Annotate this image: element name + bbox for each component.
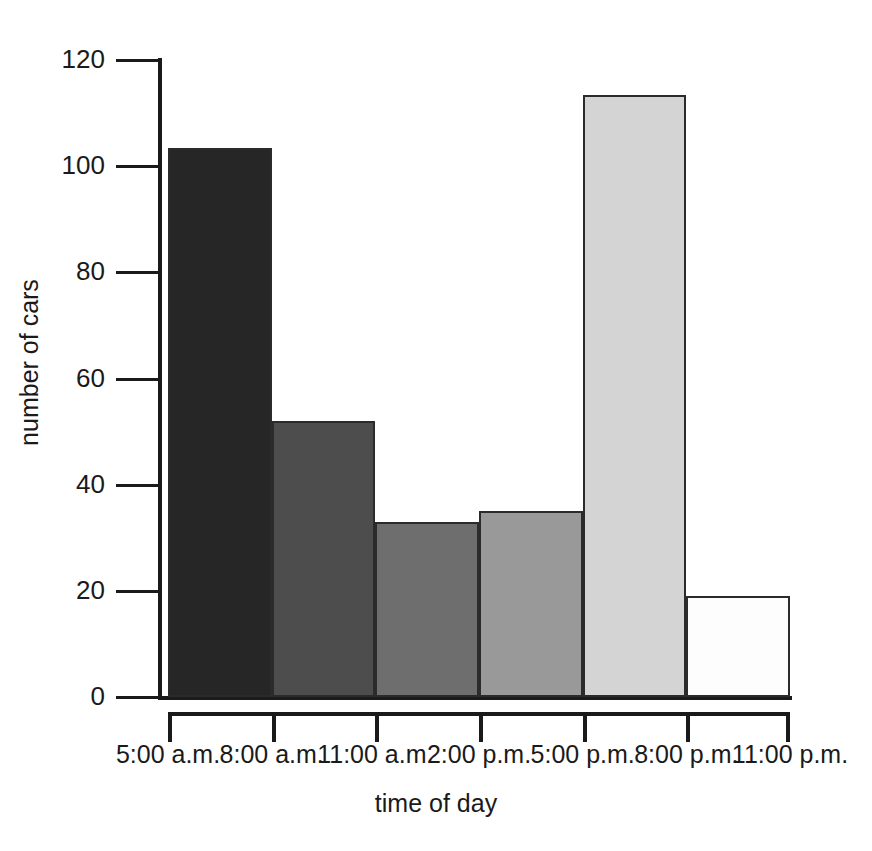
bar-1 [168, 148, 272, 697]
bar-6 [686, 596, 790, 697]
y-tick-label: 80 [33, 258, 105, 284]
ruler-tick [375, 712, 379, 742]
ruler-tick [272, 712, 276, 742]
y-tick-mark [116, 59, 158, 62]
y-tick-label: 120 [33, 46, 105, 72]
bar-5 [583, 95, 687, 697]
bar-3 [375, 522, 479, 697]
ruler-tick [583, 712, 587, 742]
x-tick-label: 11:00 p.m. [710, 742, 870, 767]
y-tick-label: 40 [33, 471, 105, 497]
y-tick-mark [116, 271, 158, 274]
y-tick-mark [116, 590, 158, 593]
y-tick-mark [116, 165, 158, 168]
y-axis-line [158, 58, 162, 700]
plot-area [168, 60, 790, 697]
ruler-tick [168, 712, 172, 742]
ruler-tick [479, 712, 483, 742]
ruler-tick [786, 712, 790, 742]
bar-4 [479, 511, 583, 697]
bar-2 [272, 421, 376, 697]
y-tick-label: 20 [33, 577, 105, 603]
y-tick-mark [116, 484, 158, 487]
y-tick-mark [116, 378, 158, 381]
y-tick-label: 100 [33, 152, 105, 178]
ruler-tick [686, 712, 690, 742]
chart-title-cutoff [0, 0, 872, 4]
x-axis-title: time of day [0, 789, 872, 818]
y-tick-label: 0 [33, 683, 105, 709]
y-axis-title: number of cars [15, 273, 44, 453]
y-tick-mark [116, 696, 158, 699]
y-tick-label: 60 [33, 365, 105, 391]
bar-chart: number of cars 020406080100120 5:00 a.m.… [0, 0, 872, 851]
